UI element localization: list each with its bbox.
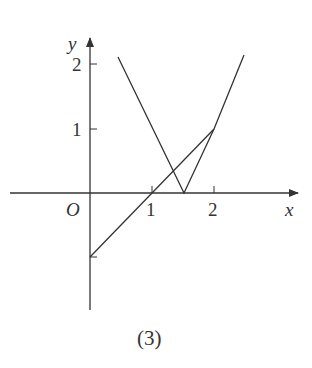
figure-caption: (3): [137, 326, 162, 350]
y-axis-label: y: [66, 33, 77, 54]
graph-figure: y 2 1 O 1 2 x (3): [0, 0, 312, 368]
x-tick-label-2: 2: [208, 199, 218, 220]
y-tick-label-2: 2: [72, 54, 82, 75]
x-axis-label: x: [284, 199, 294, 220]
x-tick-label-1: 1: [146, 199, 156, 220]
origin-label: O: [66, 199, 80, 220]
y-tick-label-1: 1: [72, 119, 82, 140]
v-shaped-graph: [118, 55, 244, 193]
